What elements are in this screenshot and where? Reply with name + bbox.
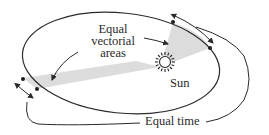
- equal-areas-label: Equal vectorial areas: [78, 23, 148, 59]
- kepler-orbit-diagram: [0, 0, 269, 135]
- equal-time-label: Equal time: [142, 115, 203, 127]
- aphelion-arc-arrow: [18, 86, 33, 98]
- sun-icon: [155, 52, 175, 72]
- sun-label: Sun: [170, 77, 189, 89]
- aphelion-sector: [23, 61, 160, 89]
- orbit-ellipse: [17, 3, 224, 123]
- equal-areas-label-line3: areas: [78, 47, 148, 59]
